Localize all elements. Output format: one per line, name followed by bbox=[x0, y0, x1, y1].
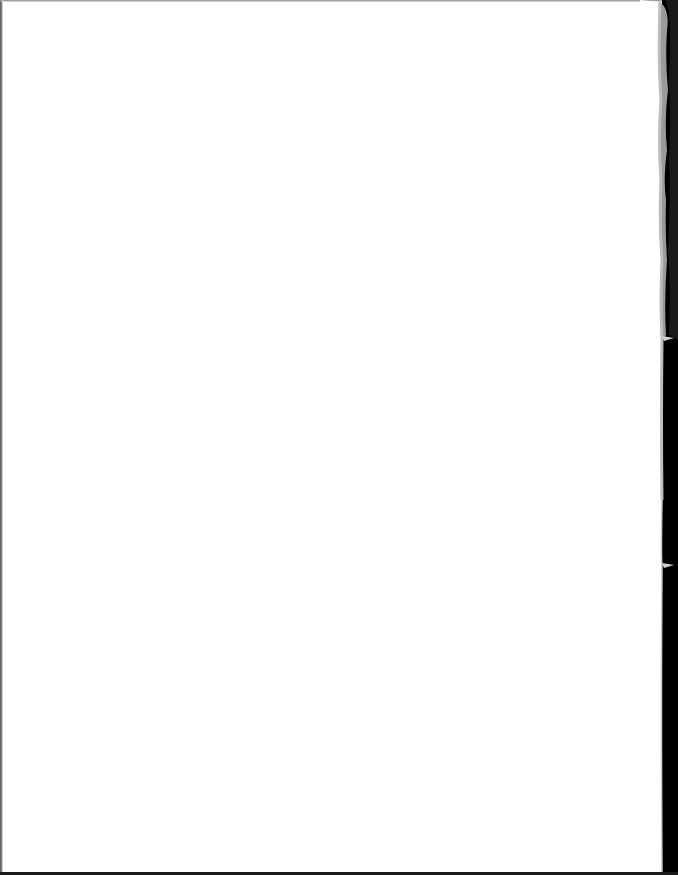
paper-left-edge bbox=[0, 0, 3, 875]
scanner-background bbox=[0, 0, 678, 875]
paper-top-edge bbox=[0, 0, 670, 2]
blank-paper-sheet bbox=[2, 2, 662, 873]
torn-edge-shape-icon bbox=[640, 0, 678, 875]
